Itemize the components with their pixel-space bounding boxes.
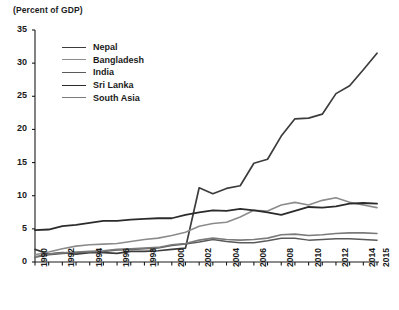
x-tick-label-1998: 1998 (148, 248, 158, 267)
y-tick-label-20: 20 (5, 123, 27, 133)
x-tick-label-2004: 2004 (231, 248, 241, 267)
legend-line-swatch-icon (62, 97, 86, 98)
x-tick-label-2002: 2002 (203, 248, 213, 267)
x-tick-label-1990: 1990 (39, 248, 49, 267)
legend-line-swatch-icon (62, 85, 86, 86)
x-tick-label-2008: 2008 (285, 248, 295, 267)
y-tick-label-25: 25 (5, 90, 27, 100)
x-tick-label-2012: 2012 (340, 248, 350, 267)
y-tick-label-35: 35 (5, 24, 27, 34)
series-line-sri-lanka (35, 203, 377, 230)
chart-legend: NepalBangladeshIndiaSri LankaSouth Asia (62, 41, 144, 104)
x-tick-label-1996: 1996 (121, 248, 131, 267)
legend-label: India (93, 67, 114, 77)
y-tick-label-30: 30 (5, 57, 27, 67)
legend-label: Nepal (93, 42, 118, 52)
x-tick-label-1992: 1992 (66, 248, 76, 267)
legend-label: Bangladesh (93, 55, 144, 65)
legend-label: South Asia (93, 93, 140, 103)
legend-line-swatch-icon (62, 59, 86, 60)
x-tick-label-1994: 1994 (94, 248, 104, 267)
x-tick-label-2006: 2006 (258, 248, 268, 267)
y-tick-label-10: 10 (5, 190, 27, 200)
legend-item-nepal: Nepal (62, 41, 144, 54)
legend-line-swatch-icon (62, 72, 86, 73)
x-tick-label-2010: 2010 (313, 248, 323, 267)
x-tick-label-2015: 2015 (381, 248, 391, 267)
chart-container: (Percent of GDP) 05101520253035 19901992… (0, 0, 399, 310)
y-tick-label-0: 0 (5, 256, 27, 266)
legend-line-swatch-icon (62, 47, 86, 48)
series-line-bangladesh (35, 198, 377, 255)
legend-item-bangladesh: Bangladesh (62, 54, 144, 67)
legend-item-india: India (62, 66, 144, 79)
legend-item-sri-lanka: Sri Lanka (62, 79, 144, 92)
x-tick-label-2000: 2000 (176, 248, 186, 267)
y-tick-label-5: 5 (5, 223, 27, 233)
legend-label: Sri Lanka (93, 80, 134, 90)
y-tick-label-15: 15 (5, 157, 27, 167)
x-tick-label-2014: 2014 (367, 248, 377, 267)
legend-item-south-asia: South Asia (62, 91, 144, 104)
